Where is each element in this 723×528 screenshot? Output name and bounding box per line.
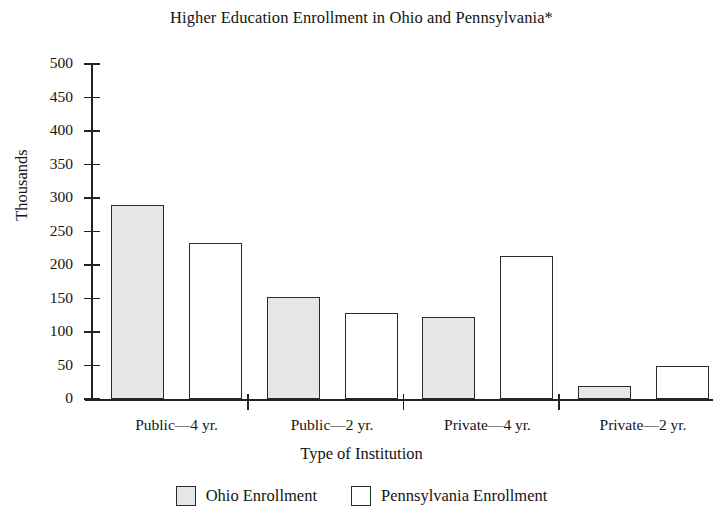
y-axis-tick: 500 bbox=[84, 63, 100, 65]
x-axis-title: Type of Institution bbox=[0, 444, 723, 464]
y-axis-tick: 300 bbox=[84, 197, 100, 199]
y-axis-tick-label: 300 bbox=[50, 187, 73, 207]
y-axis-tick: 100 bbox=[84, 331, 100, 333]
bar-ohio-1 bbox=[111, 205, 164, 399]
x-axis-line bbox=[85, 399, 713, 401]
y-axis-tick-label: 500 bbox=[50, 53, 73, 73]
y-axis-tick-label: 450 bbox=[50, 87, 73, 107]
y-axis-tick: 150 bbox=[84, 298, 100, 300]
y-axis-tick: 50 bbox=[84, 365, 100, 367]
y-axis-tick-label: 150 bbox=[50, 288, 73, 308]
bar-pennsylvania-2 bbox=[345, 313, 398, 399]
legend-swatch-icon bbox=[176, 486, 196, 506]
legend-item-ohio: Ohio Enrollment bbox=[176, 486, 317, 506]
legend-swatch-icon bbox=[351, 486, 371, 506]
y-axis-title: Thousands bbox=[12, 125, 32, 245]
y-axis-tick-label: 400 bbox=[50, 120, 73, 140]
legend-label: Ohio Enrollment bbox=[206, 486, 317, 506]
legend-label: Pennsylvania Enrollment bbox=[381, 486, 547, 506]
y-axis-tick: 450 bbox=[84, 97, 100, 99]
y-axis-tick-label: 100 bbox=[50, 321, 73, 341]
bar-ohio-3 bbox=[422, 317, 475, 399]
legend-item-pennsylvania: Pennsylvania Enrollment bbox=[351, 486, 547, 506]
chart-legend: Ohio EnrollmentPennsylvania Enrollment bbox=[0, 486, 723, 506]
bar-pennsylvania-4 bbox=[656, 366, 709, 400]
y-axis-tick: 200 bbox=[84, 264, 100, 266]
x-axis-tick bbox=[403, 394, 405, 410]
x-axis-group-label: Public—4 yr. bbox=[135, 416, 218, 434]
x-axis-tick bbox=[558, 394, 560, 410]
y-axis-tick-label: 0 bbox=[65, 388, 73, 408]
y-axis-tick-label: 250 bbox=[50, 221, 73, 241]
y-axis-tick: 0 bbox=[84, 398, 100, 400]
plot-area: 050100150200250300350400450500 Public—4 … bbox=[91, 64, 713, 399]
y-axis-tick: 350 bbox=[84, 164, 100, 166]
y-axis-tick-label: 200 bbox=[50, 254, 73, 274]
bar-ohio-2 bbox=[267, 297, 320, 399]
bar-ohio-4 bbox=[578, 386, 631, 399]
y-axis-tick: 250 bbox=[84, 231, 100, 233]
x-axis-group-label: Private—4 yr. bbox=[444, 416, 531, 434]
y-axis-tick-label: 50 bbox=[58, 355, 74, 375]
chart-title: Higher Education Enrollment in Ohio and … bbox=[0, 8, 723, 28]
x-axis-group-label: Private—2 yr. bbox=[600, 416, 687, 434]
y-axis-tick-label: 350 bbox=[50, 154, 73, 174]
x-axis-tick bbox=[247, 394, 249, 410]
bar-pennsylvania-3 bbox=[500, 256, 553, 399]
bar-pennsylvania-1 bbox=[189, 243, 242, 399]
y-axis-tick: 400 bbox=[84, 130, 100, 132]
x-axis-group-label: Public—2 yr. bbox=[291, 416, 374, 434]
